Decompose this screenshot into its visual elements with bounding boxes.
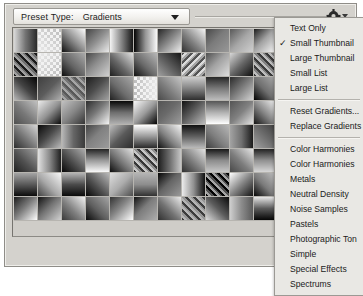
gradient-swatch[interactable]	[206, 197, 230, 221]
menu-item-pastels[interactable]: Pastels	[275, 217, 363, 232]
gradient-swatch[interactable]	[14, 149, 38, 173]
gradient-swatch[interactable]	[134, 29, 158, 53]
gradient-swatch[interactable]	[230, 197, 254, 221]
gradient-swatch[interactable]	[158, 125, 182, 149]
gradient-swatch[interactable]	[206, 77, 230, 101]
menu-item-noise-samples[interactable]: Noise Samples	[275, 202, 363, 217]
gradient-swatch[interactable]	[86, 77, 110, 101]
gradient-swatch[interactable]	[230, 29, 254, 53]
gradient-swatch[interactable]	[62, 101, 86, 125]
gradient-swatch[interactable]	[14, 173, 38, 197]
menu-item-photographic-ton[interactable]: Photographic Ton	[275, 232, 363, 247]
gradient-swatch[interactable]	[134, 77, 158, 101]
gradient-swatch[interactable]	[14, 197, 38, 221]
gradient-swatch[interactable]	[206, 101, 230, 125]
gradient-swatch[interactable]	[206, 149, 230, 173]
gradient-swatch[interactable]	[230, 77, 254, 101]
gradient-swatch[interactable]	[182, 29, 206, 53]
gradient-swatch[interactable]	[110, 197, 134, 221]
gradient-swatch[interactable]	[38, 77, 62, 101]
gradient-swatch[interactable]	[110, 77, 134, 101]
menu-item-spectrums[interactable]: Spectrums	[275, 277, 363, 292]
gradient-swatch[interactable]	[110, 29, 134, 53]
gradient-swatch[interactable]	[86, 125, 110, 149]
menu-item-text-only[interactable]: Text Only	[275, 21, 363, 36]
gradient-swatch-fill	[206, 29, 229, 52]
gradient-swatch[interactable]	[14, 29, 38, 53]
gradient-swatch[interactable]	[182, 53, 206, 77]
gradient-swatch[interactable]	[206, 29, 230, 53]
gradient-swatch[interactable]	[110, 53, 134, 77]
gradient-swatch[interactable]	[14, 125, 38, 149]
menu-item-large-list[interactable]: Large List	[275, 81, 363, 96]
gradient-swatch[interactable]	[86, 53, 110, 77]
gradient-swatch[interactable]	[86, 29, 110, 53]
gradient-swatch[interactable]	[158, 29, 182, 53]
gradient-swatch[interactable]	[86, 173, 110, 197]
gradient-swatch[interactable]	[38, 197, 62, 221]
gradient-swatch[interactable]	[134, 53, 158, 77]
gradient-swatch[interactable]	[134, 149, 158, 173]
gradient-swatch[interactable]	[38, 29, 62, 53]
gradient-swatch[interactable]	[86, 197, 110, 221]
gradient-swatch[interactable]	[158, 101, 182, 125]
gradient-swatch[interactable]	[62, 197, 86, 221]
gradient-swatch[interactable]	[230, 173, 254, 197]
panel-flyout-menu[interactable]: Text Only✓Small ThumbnailLarge Thumbnail…	[274, 17, 363, 296]
gradient-swatch[interactable]	[182, 77, 206, 101]
gradient-swatch[interactable]	[110, 173, 134, 197]
gradient-swatch[interactable]	[110, 149, 134, 173]
preset-type-dropdown[interactable]: Preset Type: Gradients	[13, 8, 190, 25]
gradient-swatch[interactable]	[230, 149, 254, 173]
gradient-swatch[interactable]	[230, 125, 254, 149]
gradient-swatch[interactable]	[62, 149, 86, 173]
menu-item-simple[interactable]: Simple	[275, 247, 363, 262]
gradient-swatch[interactable]	[158, 197, 182, 221]
gradient-swatch[interactable]	[158, 173, 182, 197]
gradient-swatch[interactable]	[134, 125, 158, 149]
menu-item-small-list[interactable]: Small List	[275, 66, 363, 81]
menu-item-special-effects[interactable]: Special Effects	[275, 262, 363, 277]
gradient-swatch[interactable]	[38, 101, 62, 125]
gradient-swatch[interactable]	[14, 53, 38, 77]
gradient-swatch[interactable]	[230, 53, 254, 77]
menu-item-neutral-density[interactable]: Neutral Density	[275, 187, 363, 202]
gradient-swatch[interactable]	[38, 149, 62, 173]
gradient-swatch[interactable]	[158, 149, 182, 173]
gradient-swatch[interactable]	[38, 173, 62, 197]
menu-item-small-thumbnail[interactable]: ✓Small Thumbnail	[275, 36, 363, 51]
gradient-swatch[interactable]	[182, 173, 206, 197]
gradient-swatch[interactable]	[14, 101, 38, 125]
menu-item-color-harmonies[interactable]: Color Harmonies	[275, 142, 363, 157]
gradient-swatch[interactable]	[206, 125, 230, 149]
gradient-swatch[interactable]	[134, 197, 158, 221]
gradient-swatch[interactable]	[110, 101, 134, 125]
gradient-swatch[interactable]	[158, 77, 182, 101]
gradient-swatch[interactable]	[206, 53, 230, 77]
gradient-swatch[interactable]	[206, 173, 230, 197]
gradient-swatch[interactable]	[134, 101, 158, 125]
menu-item-large-thumbnail[interactable]: Large Thumbnail	[275, 51, 363, 66]
gradient-swatch[interactable]	[110, 125, 134, 149]
gradient-swatch[interactable]	[182, 149, 206, 173]
gradient-swatch[interactable]	[62, 77, 86, 101]
gradient-swatch[interactable]	[134, 173, 158, 197]
gradient-swatch[interactable]	[182, 101, 206, 125]
gradient-swatch[interactable]	[62, 29, 86, 53]
gradient-swatch[interactable]	[230, 101, 254, 125]
gradient-swatch[interactable]	[62, 125, 86, 149]
menu-item-color-harmonies[interactable]: Color Harmonies	[275, 157, 363, 172]
menu-item-metals[interactable]: Metals	[275, 172, 363, 187]
gradient-swatch[interactable]	[182, 125, 206, 149]
gradient-swatch[interactable]	[86, 149, 110, 173]
gradient-swatch[interactable]	[62, 173, 86, 197]
gradient-swatch[interactable]	[14, 77, 38, 101]
menu-item-replace-gradients[interactable]: Replace Gradients	[275, 119, 363, 134]
gradient-swatch[interactable]	[38, 125, 62, 149]
menu-item-reset-gradients[interactable]: Reset Gradients...	[275, 104, 363, 119]
gradient-swatch[interactable]	[86, 101, 110, 125]
gradient-swatch[interactable]	[62, 53, 86, 77]
gradient-swatch[interactable]	[182, 197, 206, 221]
gradient-swatch[interactable]	[158, 53, 182, 77]
gradient-swatch[interactable]	[38, 53, 62, 77]
